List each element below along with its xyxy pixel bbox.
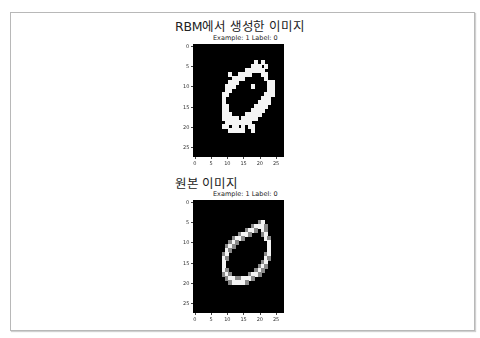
- x-tick-label: 15: [240, 160, 246, 166]
- x-tick-mark: [195, 157, 196, 159]
- y-tick-mark: [191, 107, 193, 108]
- y-tick-label: 15: [183, 104, 189, 110]
- plot-title-original: Example: 1 Label: 0: [213, 190, 278, 198]
- y-tick-label: 20: [183, 280, 189, 286]
- x-tick-label: 20: [257, 316, 263, 322]
- x-tick-mark: [243, 157, 244, 159]
- x-tick-label: 0: [193, 316, 196, 322]
- x-tick-mark: [211, 157, 212, 159]
- x-tick-label: 15: [240, 316, 246, 322]
- x-tick-mark: [195, 313, 196, 315]
- y-tick-label: 10: [183, 239, 189, 245]
- x-tick-mark: [211, 313, 212, 315]
- y-tick-mark: [191, 202, 193, 203]
- x-tick-mark: [276, 157, 277, 159]
- y-tick-label: 25: [183, 300, 189, 306]
- y-tick-label: 25: [183, 144, 189, 150]
- image-pixels: [193, 44, 284, 157]
- y-tick-label: 5: [186, 63, 189, 69]
- x-tick-mark: [276, 313, 277, 315]
- y-tick-label: 0: [186, 199, 189, 205]
- y-tick-mark: [191, 242, 193, 243]
- y-tick-mark: [191, 46, 193, 47]
- x-tick-label: 5: [209, 316, 212, 322]
- y-tick-label: 10: [183, 83, 189, 89]
- y-tick-label: 20: [183, 124, 189, 130]
- x-tick-label: 10: [224, 160, 230, 166]
- y-tick-mark: [191, 263, 193, 264]
- x-tick-label: 0: [193, 160, 196, 166]
- x-tick-mark: [260, 313, 261, 315]
- y-tick-label: 0: [186, 43, 189, 49]
- x-tick-mark: [227, 313, 228, 315]
- y-tick-mark: [191, 147, 193, 148]
- y-tick-mark: [191, 303, 193, 304]
- x-tick-label: 20: [257, 160, 263, 166]
- y-tick-mark: [191, 283, 193, 284]
- y-tick-label: 15: [183, 260, 189, 266]
- x-tick-label: 5: [209, 160, 212, 166]
- x-tick-label: 25: [273, 316, 279, 322]
- y-tick-mark: [191, 127, 193, 128]
- y-tick-label: 5: [186, 219, 189, 225]
- y-tick-mark: [191, 222, 193, 223]
- y-tick-mark: [191, 66, 193, 67]
- rbm-image-plot: [193, 44, 284, 157]
- y-tick-mark: [191, 86, 193, 87]
- x-tick-mark: [227, 157, 228, 159]
- section-heading-rbm: RBM에서 생성한 이미지: [175, 16, 304, 35]
- image-pixels: [193, 200, 284, 313]
- original-image-plot: [193, 200, 284, 313]
- x-tick-label: 25: [273, 160, 279, 166]
- x-tick-mark: [243, 313, 244, 315]
- x-tick-mark: [260, 157, 261, 159]
- x-tick-label: 10: [224, 316, 230, 322]
- plot-title-rbm: Example: 1 Label: 0: [213, 34, 278, 42]
